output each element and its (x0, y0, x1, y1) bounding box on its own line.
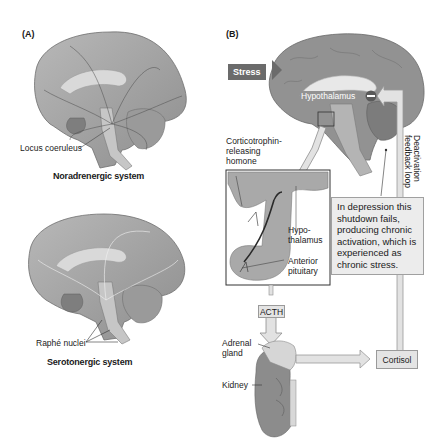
panel-a-label: (A) (22, 29, 35, 39)
serotonergic-caption: Serotonergic system (47, 357, 132, 367)
serotonergic-brain-illustration (29, 214, 185, 344)
depression-note: In depression this shutdown fails, produ… (331, 197, 424, 275)
inset-hypothalamus-label-2: thalamus (288, 235, 323, 245)
crh-label-3: homone (226, 156, 257, 166)
panel-b-label: (B) (226, 29, 239, 39)
acth-box: ACTH (258, 305, 285, 318)
locus-coeruleus-label: Locus coeruleus (20, 143, 82, 153)
raphe-nuclei-label: Raphé nuclei (36, 338, 86, 348)
cortisol-box: Cortisol (376, 350, 418, 369)
inset-hypothalamus-label-1: Hypo- (288, 225, 311, 235)
crh-label-1: Corticotrophin- (226, 136, 282, 146)
hypothalamus-label: Hypothalamus (300, 91, 356, 101)
crh-label-2: releasing (226, 146, 261, 156)
noradrenergic-caption: Noradrenergic system (53, 171, 144, 181)
adrenal-label-1: Adrenal (222, 338, 251, 348)
inset-pituitary-label-2: pituitary (288, 266, 318, 276)
inset-pituitary-label-1: Anterior (288, 256, 318, 266)
kidney-illustration (255, 341, 296, 437)
kidney-label: Kidney (222, 380, 248, 390)
cortisol-arrow (296, 350, 370, 368)
inhibit-icon (366, 91, 377, 102)
stress-label: Stress (228, 64, 266, 80)
adrenal-label-2: gland (222, 348, 243, 358)
